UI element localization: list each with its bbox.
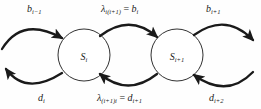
birth-middle-sub: i — [137, 8, 139, 15]
lambda-sub-death: (i+1)i — [101, 97, 117, 104]
death-out-left-sub: i — [43, 97, 45, 104]
state-label-i: Si — [81, 51, 88, 62]
equals-birth: = — [121, 3, 132, 14]
transition-label-death-middle: λ(i+1)i = di+1 — [97, 92, 142, 103]
state-label-i-plus-1-sub: i+1 — [175, 56, 184, 63]
state-label-i-plus-1: Si+1 — [170, 51, 184, 62]
death-in-right-sub: i+2 — [214, 97, 223, 104]
lambda-sub-birth: i(i+1) — [105, 8, 121, 15]
birth-in-left-sub: i−1 — [32, 8, 41, 15]
arrow-birth-middle — [100, 25, 157, 37]
transition-label-birth-in-left: bi−1 — [27, 3, 41, 14]
death-middle-sub: i+1 — [133, 97, 142, 104]
arrow-birth-out-right — [194, 25, 253, 40]
state-transition-diagram: Si Si+1 bi−1 λi(i+1) = bi bi+1 di λ(i+1)… — [0, 0, 261, 109]
arrow-death-middle — [100, 74, 157, 86]
death-middle-base: d — [128, 92, 133, 103]
birth-middle-base: b — [132, 3, 137, 14]
equals-death: = — [117, 92, 128, 103]
transition-label-death-out-left: di — [38, 92, 45, 103]
arrow-death-in-right — [194, 72, 253, 86]
transition-label-birth-out-right: bi+1 — [206, 3, 220, 14]
arrow-birth-in-left — [2, 29, 62, 49]
state-label-i-sub: i — [86, 56, 88, 63]
arrow-death-out-left — [6, 69, 62, 84]
transition-label-death-in-right: di+2 — [209, 92, 223, 103]
birth-out-right-sub: i+1 — [211, 8, 220, 15]
transition-label-birth-middle: λi(i+1) = bi — [101, 3, 138, 14]
